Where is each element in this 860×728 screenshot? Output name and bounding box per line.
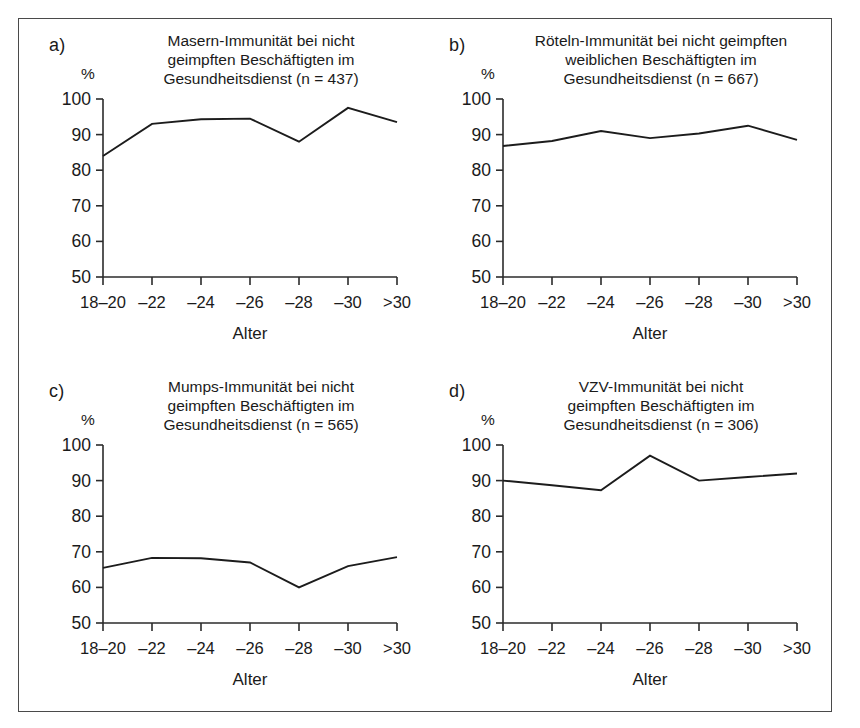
x-tick-label: >30 bbox=[383, 293, 411, 311]
y-tick-label: 90 bbox=[472, 471, 492, 491]
plot-area-d: 506070809010018–20–22–24–26–28–30>30Alte… bbox=[425, 367, 825, 711]
y-tick-label: 100 bbox=[462, 89, 491, 109]
x-axis-title: Alter bbox=[633, 670, 668, 689]
x-tick-label: –24 bbox=[587, 639, 615, 657]
y-tick-label: 70 bbox=[72, 196, 92, 216]
x-tick-label: >30 bbox=[783, 639, 811, 657]
y-tick-label: 70 bbox=[472, 542, 492, 562]
x-tick-label: –22 bbox=[538, 639, 566, 657]
x-tick-label: –30 bbox=[334, 639, 362, 657]
x-tick-label: –26 bbox=[636, 293, 664, 311]
y-tick-label: 70 bbox=[72, 542, 92, 562]
x-tick-label: 18–20 bbox=[80, 293, 126, 311]
y-tick-label: 80 bbox=[72, 506, 92, 526]
y-tick-label: 100 bbox=[62, 89, 91, 109]
x-tick-label: >30 bbox=[783, 293, 811, 311]
x-tick-label: >30 bbox=[383, 639, 411, 657]
x-tick-label: –26 bbox=[236, 639, 264, 657]
y-tick-label: 60 bbox=[472, 231, 492, 251]
x-tick-label: –22 bbox=[138, 293, 166, 311]
data-series-line bbox=[503, 456, 797, 491]
y-tick-label: 50 bbox=[72, 613, 92, 633]
plot-area-b: 506070809010018–20–22–24–26–28–30>30Alte… bbox=[425, 21, 825, 365]
figure-frame: a) Masern-Immunität bei nicht geimpften … bbox=[18, 18, 832, 712]
chart-panel-a: a) Masern-Immunität bei nicht geimpften … bbox=[25, 21, 425, 365]
x-tick-label: –24 bbox=[187, 293, 215, 311]
chart-panel-d: d) VZV-Immunität bei nicht geimpften Bes… bbox=[425, 367, 825, 711]
y-tick-label: 70 bbox=[472, 196, 492, 216]
y-tick-label: 60 bbox=[472, 577, 492, 597]
x-tick-label: 18–20 bbox=[480, 293, 526, 311]
y-tick-label: 60 bbox=[72, 231, 92, 251]
chart-panel-c: c) Mumps-Immunität bei nicht geimpften B… bbox=[25, 367, 425, 711]
y-tick-label: 60 bbox=[72, 577, 92, 597]
y-tick-label: 90 bbox=[72, 125, 92, 145]
x-tick-label: –24 bbox=[587, 293, 615, 311]
y-tick-label: 100 bbox=[462, 435, 491, 455]
x-tick-label: –28 bbox=[685, 639, 713, 657]
y-tick-label: 50 bbox=[72, 267, 92, 287]
x-tick-label: –30 bbox=[734, 639, 762, 657]
x-axis-title: Alter bbox=[233, 670, 268, 689]
data-series-line bbox=[103, 108, 397, 156]
y-tick-label: 50 bbox=[472, 613, 492, 633]
y-tick-label: 80 bbox=[472, 160, 492, 180]
x-axis-title: Alter bbox=[633, 324, 668, 343]
data-series-line bbox=[503, 126, 797, 146]
x-tick-label: –24 bbox=[187, 639, 215, 657]
x-axis-title: Alter bbox=[233, 324, 268, 343]
x-tick-label: 18–20 bbox=[480, 639, 526, 657]
x-tick-label: –28 bbox=[285, 293, 313, 311]
x-tick-label: –22 bbox=[538, 293, 566, 311]
x-tick-label: –28 bbox=[685, 293, 713, 311]
chart-panel-b: b) Röteln-Immunität bei nicht geimpften … bbox=[425, 21, 825, 365]
y-tick-label: 80 bbox=[472, 506, 492, 526]
x-tick-label: 18–20 bbox=[80, 639, 126, 657]
y-tick-label: 80 bbox=[72, 160, 92, 180]
x-tick-label: –30 bbox=[334, 293, 362, 311]
plot-area-c: 506070809010018–20–22–24–26–28–30>30Alte… bbox=[25, 367, 425, 711]
x-tick-label: –28 bbox=[285, 639, 313, 657]
x-tick-label: –22 bbox=[138, 639, 166, 657]
x-tick-label: –26 bbox=[236, 293, 264, 311]
y-tick-label: 90 bbox=[472, 125, 492, 145]
data-series-line bbox=[103, 557, 397, 587]
plot-area-a: 506070809010018–20–22–24–26–28–30>30Alte… bbox=[25, 21, 425, 365]
y-tick-label: 100 bbox=[62, 435, 91, 455]
y-tick-label: 50 bbox=[472, 267, 492, 287]
x-tick-label: –26 bbox=[636, 639, 664, 657]
y-tick-label: 90 bbox=[72, 471, 92, 491]
x-tick-label: –30 bbox=[734, 293, 762, 311]
